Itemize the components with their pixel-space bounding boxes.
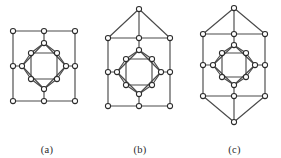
graph-vertex-outer-bottom-mid [41,98,46,103]
graph-vertex-inner-top-left [219,50,224,55]
graph-diagram-c [188,0,281,130]
graph-vertex-diamond-left [19,63,24,68]
graph-vertex-outer-bottom-left [10,98,15,103]
graph-vertex-diamond-top [231,42,236,47]
graph-vertex-outer-top-left [10,28,15,33]
graph-vertex-diamond-left [210,62,215,67]
graph-vertex-outer-mid-right [167,69,172,74]
graph-vertex-diamond-top [41,40,46,45]
graph-vertex-outer-bottom-left [200,93,205,98]
graph-vertex-inner-bottom-left [123,82,128,87]
figure-root: (a) (b) (c) [0,0,281,158]
graph-panel-a: (a) [0,0,94,158]
caption-b: (b) [92,144,188,155]
graph-vertex-diamond-right [252,62,257,67]
caption-c: (c) [188,144,281,155]
graph-diagram-a [0,0,94,130]
caption-a: (a) [0,144,94,155]
graph-vertex-outer-top-mid [136,35,141,40]
graph-vertex-outer-mid-right [262,62,267,67]
graph-vertex-inner-top-right [243,50,248,55]
graph-vertex-outer-mid-left [200,62,205,67]
graph-vertex-apex-top [231,5,236,10]
graph-vertex-outer-mid-right [72,63,77,68]
graph-edge [234,96,265,122]
graph-vertex-outer-top-left [200,31,205,36]
graph-vertex-outer-top-mid [231,31,236,36]
graph-diagram-b [92,0,188,130]
graph-vertex-outer-bottom-mid [231,93,236,98]
graph-vertex-outer-top-left [105,35,110,40]
graph-edge [203,96,234,122]
graph-edge [108,9,139,38]
graph-vertex-diamond-top [136,47,141,52]
graph-vertex-outer-top-mid [41,28,46,33]
graph-vertex-diamond-right [63,63,68,68]
graph-vertex-inner-top-right [149,56,154,61]
graph-vertex-inner-top-left [123,56,128,61]
graph-vertex-inner-bottom-right [54,76,59,81]
graph-vertex-inner-bottom-left [28,76,33,81]
graph-vertex-inner-top-right [54,50,59,55]
graph-vertex-apex-top [136,6,141,11]
graph-vertex-diamond-left [114,69,119,74]
graph-vertex-diamond-bottom [231,82,236,87]
graph-vertex-diamond-right [158,69,163,74]
graph-vertex-apex-bottom [231,119,236,124]
graph-edge [139,9,170,38]
graph-vertex-outer-bottom-right [72,98,77,103]
graph-vertex-outer-bottom-right [167,103,172,108]
graph-vertex-inner-bottom-right [149,82,154,87]
graph-edge [203,8,234,34]
graph-vertex-inner-bottom-right [243,74,248,79]
graph-edge [234,8,265,34]
graph-panel-c: (c) [188,0,281,158]
graph-vertex-outer-top-right [72,28,77,33]
graph-vertex-diamond-bottom [41,86,46,91]
graph-vertex-outer-bottom-mid [136,103,141,108]
graph-vertex-outer-mid-left [105,69,110,74]
graph-vertex-outer-mid-left [10,63,15,68]
graph-vertex-outer-top-right [262,31,267,36]
graph-vertex-diamond-bottom [136,91,141,96]
graph-vertex-outer-top-right [167,35,172,40]
graph-vertex-outer-bottom-right [262,93,267,98]
graph-vertex-inner-bottom-left [219,74,224,79]
graph-vertex-outer-bottom-left [105,103,110,108]
graph-panel-b: (b) [92,0,188,158]
graph-vertex-inner-top-left [28,50,33,55]
